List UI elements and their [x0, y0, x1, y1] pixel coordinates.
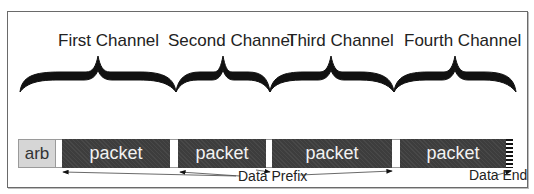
- annotation-arrows: [0, 0, 534, 194]
- data-prefix-label: Data Prefix: [238, 168, 307, 184]
- arrow-icon: [300, 171, 392, 175]
- data-end-label: Data End: [469, 167, 527, 183]
